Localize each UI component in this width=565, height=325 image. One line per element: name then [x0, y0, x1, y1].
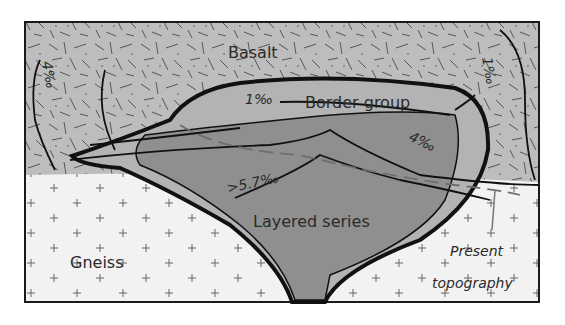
label-gneiss: Gneiss	[70, 253, 124, 272]
contour-label-1: 1‰	[245, 91, 273, 107]
label-border-group: Border group	[305, 93, 410, 112]
label-basalt: Basalt	[228, 43, 278, 62]
annotation-present: Present	[450, 243, 504, 259]
cross-section-diagram: Basalt Border group Layered series Gneis…	[0, 0, 565, 325]
label-layered-series: Layered series	[253, 212, 370, 231]
annotation-topography: topography	[432, 275, 513, 291]
